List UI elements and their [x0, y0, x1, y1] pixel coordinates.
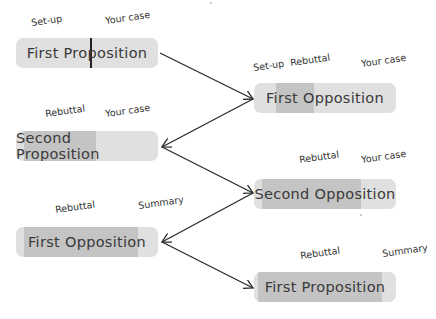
speech-name: Second Opposition — [254, 179, 396, 209]
speech-box: First Opposition — [16, 227, 158, 257]
stray-dot — [247, 191, 249, 193]
arrow-connector — [162, 242, 253, 288]
speech-box: First Proposition — [16, 38, 158, 68]
speech-name: First Opposition — [16, 227, 158, 257]
stray-dot — [210, 2, 212, 4]
stray-dot — [360, 214, 362, 216]
speech-box: First Opposition — [254, 83, 396, 113]
speech-box: Second Opposition — [254, 179, 396, 209]
speech-name: First Opposition — [254, 83, 396, 113]
speech-box: Second Proposition — [16, 131, 158, 161]
speech-name: Second Proposition — [16, 131, 158, 161]
arrow-connector — [162, 147, 253, 193]
arrow-connector — [162, 99, 253, 147]
arrow-connector — [160, 53, 253, 99]
speech-box: First Proposition — [254, 272, 396, 302]
speech-name: First Proposition — [16, 38, 158, 68]
speech-name: First Proposition — [254, 272, 396, 302]
